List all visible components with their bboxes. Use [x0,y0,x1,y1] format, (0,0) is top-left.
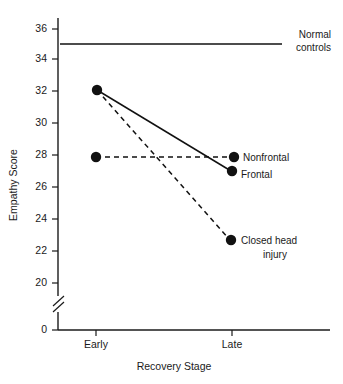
series-line-frontal [97,90,231,171]
data-point-late-closed-head-injury [226,235,236,245]
ytick-label-34: 34 [35,52,47,64]
ytick-label-20: 20 [35,276,47,288]
series-label-closed-head-injury-line1: Closed head [241,235,297,246]
ytick-label-36: 36 [35,22,47,34]
ytick-label-22: 22 [35,244,47,256]
ytick-label-30: 30 [35,116,47,128]
series-label-frontal: Frontal [241,169,272,180]
ytick-label-28: 28 [35,148,47,160]
y-axis-break-icon [53,296,64,312]
series-label-closed-head-injury-line2: injury [263,249,287,260]
xtick-label-late: Late [222,338,243,350]
ytick-label-32: 32 [35,84,47,96]
data-point-early-low [91,152,101,162]
ytick-label-24: 24 [35,212,47,224]
xtick-label-early: Early [84,338,109,350]
empathy-score-recovery-chart: 36 34 32 30 28 26 24 22 20 0 Early Late … [0,0,343,384]
series-line-closed-head-injury [97,90,230,240]
series-label-nonfrontal: Nonfrontal [243,152,289,163]
reference-label-line1: Normal [299,29,331,40]
y-axis-title: Empathy Score [7,149,19,221]
ytick-label-0: 0 [41,323,47,335]
data-point-late-frontal [227,166,237,176]
ytick-label-26: 26 [35,180,47,192]
x-axis-title: Recovery Stage [137,360,212,372]
data-point-late-nonfrontal [229,152,239,162]
chart-canvas: 36 34 32 30 28 26 24 22 20 0 Early Late … [0,0,343,384]
reference-label-line2: controls [296,42,331,53]
data-point-early-high [92,85,102,95]
